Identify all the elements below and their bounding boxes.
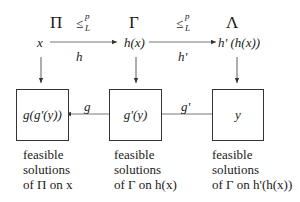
- problem-lambda: Λ: [226, 14, 238, 31]
- map-label-h: h: [76, 50, 83, 63]
- caption-line: of Γ on h(x): [114, 177, 177, 192]
- solution-box-gamma: g'(y): [109, 89, 162, 141]
- caption-line: of Γ on h'(h(x)): [212, 177, 292, 192]
- box-text-g-prime-y: g'(y): [110, 107, 161, 123]
- instance-x: x: [37, 36, 43, 49]
- problem-pi: Π: [50, 14, 62, 31]
- problem-gamma: Γ: [129, 14, 139, 31]
- caption-line: solutions: [212, 162, 292, 177]
- box-text-y: y: [213, 107, 263, 123]
- caption-line: solutions: [23, 162, 72, 177]
- caption-lambda: feasible solutions of Γ on h'(h(x)): [212, 147, 292, 192]
- map-label-g-prime: g': [181, 100, 190, 113]
- box-text-g-g-prime-y: g(g'(y)): [17, 107, 68, 123]
- caption-line: feasible: [212, 147, 292, 162]
- caption-line: feasible: [114, 147, 177, 162]
- caption-line: of Π on x: [23, 177, 72, 192]
- leq-symbol: ≤: [176, 16, 183, 31]
- caption-line: feasible: [23, 147, 72, 162]
- instance-hhx: h' (h(x)): [218, 36, 260, 49]
- caption-line: solutions: [114, 162, 177, 177]
- map-label-g: g: [84, 100, 91, 113]
- reduction-relation-2: ≤ p L: [176, 17, 183, 30]
- leq-symbol: ≤: [76, 16, 83, 31]
- reduction-subscript: L: [85, 24, 90, 33]
- solution-box-pi: g(g'(y)): [16, 89, 69, 141]
- reduction-superscript: p: [185, 12, 190, 21]
- reduction-subscript: L: [185, 24, 190, 33]
- caption-pi: feasible solutions of Π on x: [23, 147, 72, 192]
- solution-box-lambda: y: [212, 89, 264, 141]
- reduction-superscript: p: [85, 12, 90, 21]
- instance-hx: h(x): [124, 36, 145, 49]
- map-label-h-prime: h': [178, 50, 187, 63]
- reduction-relation-1: ≤ p L: [76, 17, 83, 30]
- caption-gamma: feasible solutions of Γ on h(x): [114, 147, 177, 192]
